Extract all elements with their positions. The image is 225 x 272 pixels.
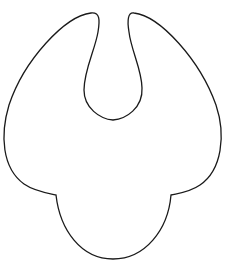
shape-outline-path (4, 13, 221, 259)
shape-outline-figure (0, 0, 225, 272)
